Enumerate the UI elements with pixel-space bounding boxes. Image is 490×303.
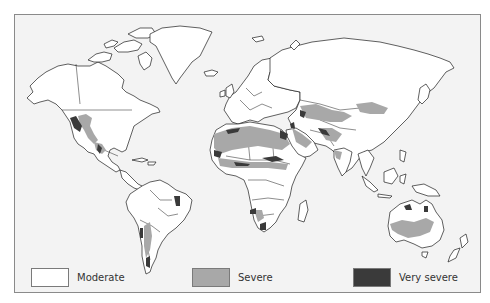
legend-swatch-moderate bbox=[31, 268, 69, 287]
philippines bbox=[400, 150, 406, 162]
legend-label-very-severe: Very severe bbox=[399, 272, 458, 283]
sumatra bbox=[362, 176, 378, 192]
land-masses bbox=[27, 26, 468, 274]
java bbox=[378, 194, 392, 198]
central-america bbox=[120, 170, 142, 190]
svalbard bbox=[252, 36, 264, 42]
new-guinea bbox=[412, 184, 440, 196]
indochina bbox=[358, 150, 374, 176]
legend-item-moderate: Moderate bbox=[31, 267, 125, 288]
caribbean-islands-2 bbox=[148, 162, 156, 165]
baffin-island bbox=[138, 52, 152, 70]
sulawesi bbox=[400, 174, 406, 184]
legend-label-moderate: Moderate bbox=[77, 272, 125, 283]
legend-swatch-very-severe bbox=[353, 268, 391, 287]
iceland bbox=[204, 70, 218, 76]
ireland bbox=[220, 90, 225, 97]
new-zealand-south bbox=[448, 248, 460, 262]
tasmania bbox=[422, 252, 428, 258]
madagascar bbox=[298, 200, 308, 222]
legend-item-very-severe: Very severe bbox=[353, 267, 458, 288]
new-zealand bbox=[460, 234, 468, 248]
caribbean-islands bbox=[132, 158, 148, 162]
continent-north-america bbox=[27, 62, 160, 172]
legend-label-severe: Severe bbox=[238, 272, 273, 283]
legend-swatch-severe bbox=[192, 268, 230, 287]
world-map bbox=[0, 0, 490, 303]
borneo bbox=[384, 168, 398, 184]
arctic-islands bbox=[88, 52, 112, 62]
greenland bbox=[150, 26, 212, 84]
legend-item-severe: Severe bbox=[192, 267, 273, 288]
continent-south-america bbox=[126, 180, 192, 274]
